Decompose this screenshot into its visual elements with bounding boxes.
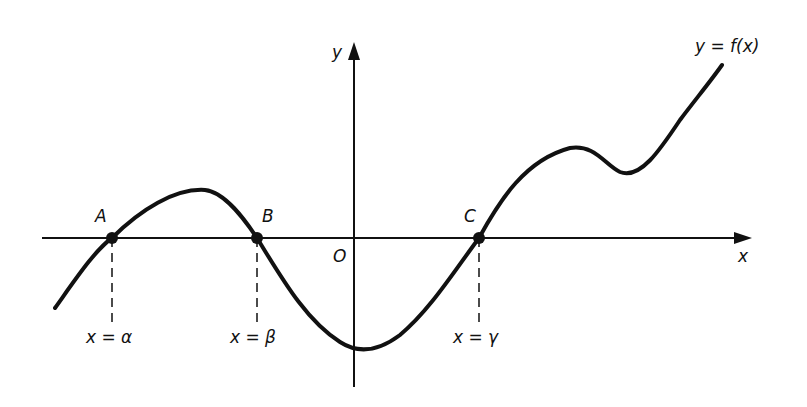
curve-f [55, 65, 722, 349]
point-a-label: A [94, 206, 107, 226]
y-axis-arrow-icon [348, 42, 360, 60]
point-c-label: C [464, 206, 476, 226]
origin-label: O [333, 246, 346, 266]
point-c-dot [473, 232, 485, 244]
root-alpha-label: x = α [85, 327, 132, 347]
point-b-dot [251, 232, 263, 244]
y-axis-label: y [331, 42, 343, 62]
point-b-label: B [262, 206, 274, 226]
root-beta-label: x = β [229, 327, 276, 347]
function-graph: A B C O x y y = f(x) x = α x = β x = γ [0, 0, 807, 407]
point-a-dot [106, 232, 118, 244]
root-gamma-label: x = γ [452, 327, 499, 347]
x-axis-arrow-icon [734, 232, 752, 244]
x-axis-label: x [737, 246, 749, 266]
curve-label: y = f(x) [694, 36, 759, 56]
